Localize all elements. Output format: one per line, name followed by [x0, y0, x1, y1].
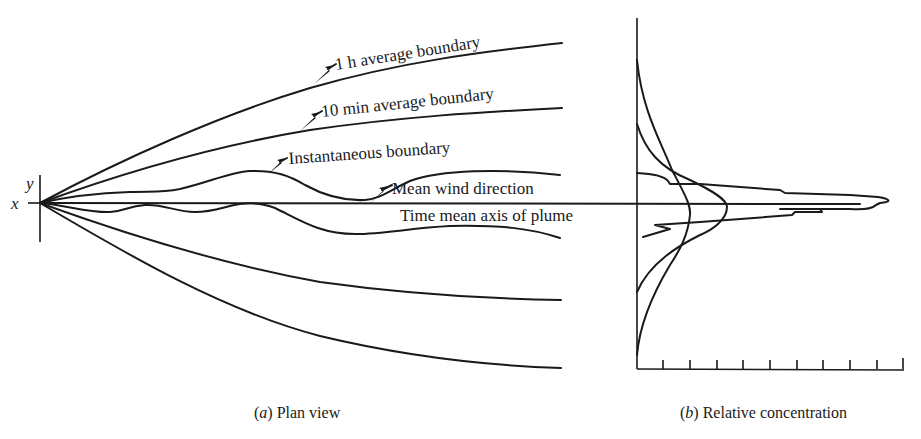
profile-ten-min-average: [637, 124, 727, 292]
caption-plan-view: (a) Plan view: [254, 404, 341, 422]
panel-b-relative-concentration: [637, 18, 904, 370]
profile-instantaneous: [637, 173, 888, 237]
label-instantaneous-boundary: Instantaneous boundary: [288, 138, 451, 168]
label-one-hour-boundary: 1 h average boundary: [334, 32, 482, 74]
plume-dispersion-figure: y x 1 h average boundary 10 min average …: [0, 0, 921, 439]
concentration-horizontal-axis: [637, 369, 904, 370]
concentration-axis-ticks: [663, 358, 903, 369]
caption-a-letter: a: [259, 404, 267, 421]
y-axis-label: y: [24, 174, 34, 193]
mean-wind-direction-line: [40, 203, 860, 204]
caption-a-text: Plan view: [273, 404, 341, 421]
label-ten-min-boundary: 10 min average boundary: [320, 84, 495, 121]
one-hour-boundary-lower: [40, 203, 561, 368]
caption-b-text: Relative concentration: [699, 404, 847, 421]
caption-relative-concentration: (b) Relative concentration: [680, 404, 847, 422]
caption-b-letter: b: [685, 404, 693, 421]
label-time-mean-axis: Time mean axis of plume: [400, 206, 573, 225]
panel-a-plan-view: y x 1 h average boundary 10 min average …: [10, 32, 860, 422]
x-axis-label: x: [10, 194, 19, 213]
profile-one-hour-average: [637, 60, 690, 355]
label-mean-wind-direction: Mean wind direction: [392, 179, 534, 198]
